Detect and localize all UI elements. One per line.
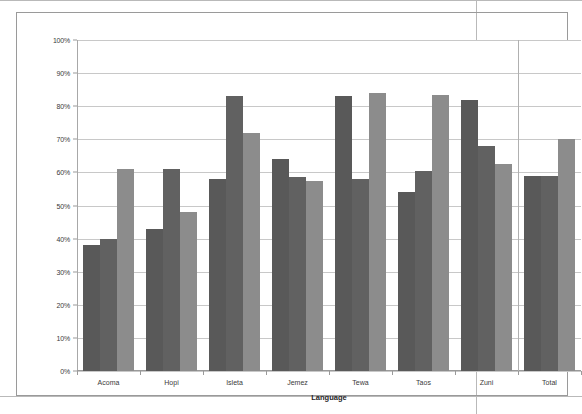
bar-group [518, 40, 581, 371]
bar-16th[interactable] [335, 96, 352, 371]
worksheet-row-border [0, 0, 582, 1]
bar-set [518, 40, 581, 371]
bar-16th[interactable] [461, 100, 478, 371]
x-axis-title: Language [77, 393, 581, 402]
bar-18th-plus[interactable] [558, 139, 575, 371]
x-axis-tick-mark [518, 371, 519, 375]
x-axis-tick-mark [140, 371, 141, 375]
bar-16th[interactable] [209, 179, 226, 371]
x-axis-tick-mark [455, 371, 456, 375]
bar-set [140, 40, 203, 371]
x-axis-tick-mark [77, 371, 78, 375]
bar-17th[interactable] [352, 179, 369, 371]
bar-17th[interactable] [163, 169, 180, 371]
bar-17th[interactable] [415, 171, 432, 371]
bar-group [266, 40, 329, 371]
bar-group [140, 40, 203, 371]
x-axis-tick-label: Jemez [287, 379, 308, 386]
x-axis-tick-mark [329, 371, 330, 375]
bar-set [392, 40, 455, 371]
bar-16th[interactable] [272, 159, 289, 371]
bar-set [329, 40, 392, 371]
bar-16th[interactable] [146, 229, 163, 371]
bar-17th[interactable] [226, 96, 243, 371]
bar-17th[interactable] [541, 176, 558, 371]
bar-group [455, 40, 518, 371]
bar-group [203, 40, 266, 371]
bar-18th-plus[interactable] [180, 212, 197, 371]
x-axis-tick-label: Isleta [226, 379, 243, 386]
bar-18th-plus[interactable] [117, 169, 134, 371]
bar-16th[interactable] [524, 176, 541, 371]
spreadsheet-canvas: 16th 17th 18th+ 0%10%20%30%40%50%60%70%8… [0, 0, 582, 414]
bar-group [329, 40, 392, 371]
x-axis-tick-label: Hopi [164, 379, 178, 386]
x-axis-tick-label: Tewa [352, 379, 368, 386]
category-separator [518, 40, 519, 371]
bar-group [77, 40, 140, 371]
bar-17th[interactable] [100, 239, 117, 371]
bar-set [203, 40, 266, 371]
x-axis-tick-label: Total [542, 379, 557, 386]
bar-18th-plus[interactable] [306, 181, 323, 371]
x-axis-tick-label: Zuni [480, 379, 494, 386]
bar-set [77, 40, 140, 371]
bar-18th-plus[interactable] [495, 164, 512, 371]
bar-17th[interactable] [289, 177, 306, 371]
x-axis-tick-label: Taos [416, 379, 431, 386]
x-axis-tick-mark [266, 371, 267, 375]
bar-group [392, 40, 455, 371]
bar-17th[interactable] [478, 146, 495, 371]
x-axis-tick-mark [203, 371, 204, 375]
bar-set [455, 40, 518, 371]
bar-set [266, 40, 329, 371]
bar-16th[interactable] [398, 192, 415, 371]
plot-area: 0%10%20%30%40%50%60%70%80%90%100% AcomaH… [77, 40, 581, 371]
bar-18th-plus[interactable] [432, 95, 449, 371]
chart-container[interactable]: 16th 17th 18th+ 0%10%20%30%40%50%60%70%8… [16, 12, 568, 396]
bar-18th-plus[interactable] [243, 133, 260, 371]
bar-16th[interactable] [83, 245, 100, 371]
bar-18th-plus[interactable] [369, 93, 386, 371]
x-axis-tick-label: Acoma [98, 379, 120, 386]
x-axis-tick-mark [392, 371, 393, 375]
